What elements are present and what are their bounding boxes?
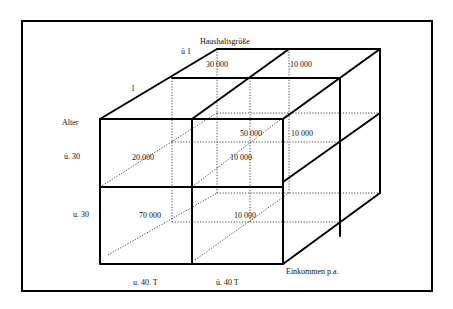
cell-front-upper-left: 20.000 [132,153,154,162]
depth-category-1: 1 [131,84,135,93]
depth-category-ue1: ü 1 [181,47,191,56]
cube-diagram: Haushaltsgröße ü 1 1 Alter ü. 30 u. 30 u… [0,0,453,309]
cell-back-upper-inner: 50 000 [240,129,262,138]
cell-back-upper-right: 10 000 [291,129,313,138]
cell-front-lower-right: 10 000 [234,211,256,220]
cell-mid-upper-right: 10 000 [230,153,252,162]
cell-top-back-left: 30 000 [206,60,228,69]
horizontal-category-u40t: u. 40. T [133,278,158,287]
horizontal-category-ue40t: ü. 40 T [216,278,239,287]
cell-top-back-right: 10 000 [290,60,312,69]
axis-title-haushaltsgroesse: Haushaltsgröße [200,37,250,46]
axis-title-einkommen: Einkommen p.a. [286,267,339,276]
vertical-category-ue30: ü. 30 [64,152,80,161]
vertical-category-u30: u. 30 [73,210,89,219]
cell-front-lower-left: 70 000 [139,211,161,220]
axis-title-alter: Alter [62,118,79,127]
